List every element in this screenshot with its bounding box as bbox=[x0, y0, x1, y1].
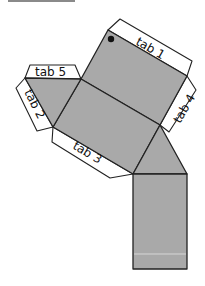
top-bar bbox=[8, 0, 75, 2]
tab-5-label: tab 5 bbox=[35, 65, 66, 79]
bottom-rectangle-face bbox=[133, 174, 187, 269]
marker-dot-icon bbox=[108, 36, 114, 42]
pyramid-net-diagram: tab 1 tab 4 tab 5 tab 2 tab 3 bbox=[0, 0, 205, 286]
